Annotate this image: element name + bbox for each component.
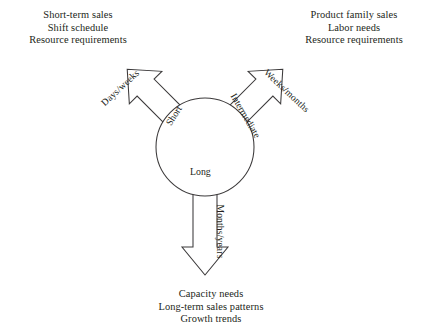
output-line: Product family sales (286, 9, 422, 22)
outputs-short-range: Short-term sales Shift schedule Resource… (4, 9, 152, 47)
diagram-graphics (0, 0, 422, 334)
output-line: Growth trends (126, 313, 296, 326)
arrow-label-months-years: Months/years (215, 204, 226, 258)
output-line: Resource requirements (286, 34, 422, 47)
output-line: Shift schedule (4, 22, 152, 35)
output-line: Long-term sales patterns (126, 301, 296, 314)
output-line: Capacity needs (126, 288, 296, 301)
outputs-intermediate-range: Product family sales Labor needs Resourc… (286, 9, 422, 47)
output-line: Labor needs (286, 22, 422, 35)
outputs-long-range: Capacity needs Long-term sales patterns … (126, 288, 296, 326)
output-line: Short-term sales (4, 9, 152, 22)
circle-label-long: Long (190, 166, 211, 177)
diagram-canvas: Short Intermediate Long Days/weeks Weeks… (0, 0, 422, 334)
output-line: Resource requirements (4, 34, 152, 47)
